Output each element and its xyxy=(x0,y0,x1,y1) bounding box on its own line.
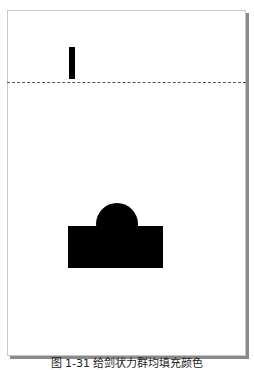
dashed-guideline[interactable] xyxy=(7,82,246,83)
figure-caption: 图 1-31 给剑状力群均填充颜色 xyxy=(0,358,254,370)
rectangle-shape[interactable] xyxy=(68,226,163,268)
drawing-page xyxy=(7,10,246,356)
vertical-bar-shape[interactable] xyxy=(69,47,75,79)
